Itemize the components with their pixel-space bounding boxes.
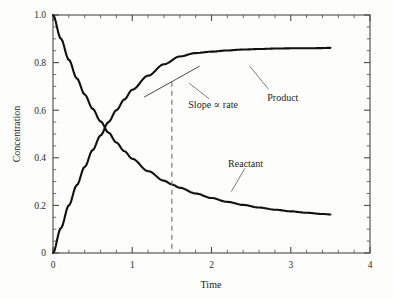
annotation-2: Reactant [228, 158, 263, 169]
x-axis-title: Time [201, 279, 222, 290]
y-tick-label: 1.0 [34, 10, 46, 20]
y-tick-labels: 00.20.40.60.81.0 [34, 10, 46, 258]
leader-product [250, 66, 269, 89]
curve-reactant [53, 15, 330, 214]
leader-reactant [231, 169, 244, 192]
annotation-leaders [189, 66, 268, 192]
curve-annotations: ProductSlope ∝ rateReactant [188, 92, 298, 170]
x-tick-label: 2 [209, 260, 214, 270]
curve-product [53, 48, 330, 253]
annotation-0: Product [267, 92, 298, 103]
x-tick-labels: 01234 [51, 260, 373, 270]
y-tick-label: 0.4 [34, 153, 46, 163]
y-tick-label: 0.2 [34, 201, 46, 211]
chart-page: 00.20.40.60.81.0 01234 ProductSlope ∝ ra… [0, 0, 393, 299]
x-tick-label: 1 [130, 260, 135, 270]
leader-slope [189, 83, 209, 98]
x-tick-label: 0 [51, 260, 56, 270]
x-tick-label: 3 [288, 260, 293, 270]
y-tick-label: 0.6 [34, 106, 46, 116]
y-tick-label: 0.8 [34, 58, 46, 68]
rate-marker [144, 66, 199, 253]
y-tick-label: 0 [41, 248, 46, 258]
y-axis-title: Concentration [11, 106, 22, 163]
concentration-vs-time-chart: 00.20.40.60.81.0 01234 ProductSlope ∝ ra… [0, 0, 393, 299]
annotation-1: Slope ∝ rate [188, 99, 238, 110]
data-curves [53, 15, 330, 253]
x-tick-label: 4 [368, 260, 373, 270]
